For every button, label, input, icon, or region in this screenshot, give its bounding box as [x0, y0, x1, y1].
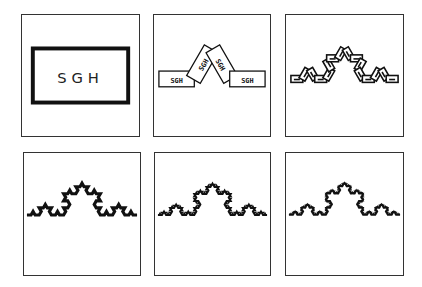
svg-text:SGH: SGH — [241, 77, 253, 85]
panel-koch-level-3 — [23, 152, 141, 276]
koch-curve-level-4-graphic — [155, 153, 270, 275]
panel-koch-level-2 — [285, 14, 404, 137]
svg-text:SGH: SGH — [57, 69, 104, 86]
koch-labeled-rects-graphic: SGHSGHSGHSGH — [154, 15, 270, 136]
koch-rects-graphic — [286, 15, 403, 136]
koch-curve-level-5-graphic — [286, 153, 403, 275]
panel-koch-level-1: SGHSGHSGHSGH — [153, 14, 271, 137]
panel-koch-level-5 — [285, 152, 404, 276]
rectangle-sgh-graphic: SGH — [22, 15, 139, 136]
panel-base-rectangle: SGH — [21, 14, 140, 137]
panel-koch-level-4 — [154, 152, 271, 276]
svg-text:SGH: SGH — [170, 77, 182, 85]
koch-curve-level-3-graphic — [24, 153, 140, 275]
